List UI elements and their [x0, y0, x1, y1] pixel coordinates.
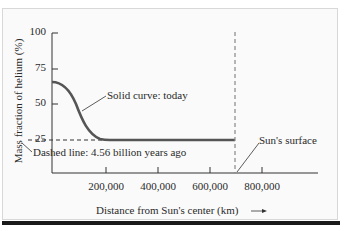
annotation-dashed-line: Dashed line: 4.56 billion years ago — [33, 146, 186, 158]
y-tick-25: 25 — [26, 132, 46, 144]
y-tick-75: 75 — [26, 61, 46, 73]
y-tick-100: 100 — [26, 25, 46, 37]
annotation-sun-surface: Sun's surface — [259, 134, 317, 146]
x-tick-600000: 600,000 — [180, 180, 240, 192]
y-axis-label: Mass fraction of helium (%) — [12, 31, 24, 171]
x-axis-label: Distance from Sun's center (km) — [96, 204, 239, 216]
chart-plot — [0, 0, 344, 231]
y-tick-50: 50 — [26, 96, 46, 108]
x-tick-200000: 200,000 — [76, 180, 136, 192]
x-tick-400000: 400,000 — [128, 180, 188, 192]
x-tick-800000: 800,000 — [232, 180, 292, 192]
annotation-solid-curve: Solid curve: today — [107, 89, 188, 101]
